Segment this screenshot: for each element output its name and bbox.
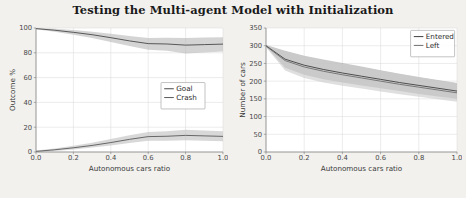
ytick-label: 60 <box>24 74 33 82</box>
legend-box[interactable]: EnteredLeft <box>411 30 455 56</box>
ytick-label: 50 <box>254 131 263 139</box>
legend-label-goal: Goal <box>176 84 192 93</box>
xtick-label: 1.0 <box>218 154 228 162</box>
right-plot-svg: 0.00.20.40.60.81.0050100150200250300350A… <box>238 22 462 174</box>
xtick-label: 1.0 <box>452 154 462 162</box>
ytick-label: 40 <box>24 99 33 107</box>
xtick-label: 0.6 <box>143 154 154 162</box>
legend-label-left: Left <box>426 41 440 50</box>
chart-panel-right: 0.00.20.40.60.81.0050100150200250300350A… <box>238 22 462 174</box>
ytick-label: 200 <box>249 78 262 86</box>
x-axis-label: Autonomous cars ratio <box>89 164 171 173</box>
xtick-label: 0.2 <box>299 154 310 162</box>
left-plot-svg: 0.00.20.40.60.81.0020406080100Autonomous… <box>8 22 228 174</box>
ytick-label: 20 <box>24 124 33 132</box>
ytick-label: 150 <box>249 95 262 103</box>
ytick-label: 0 <box>258 148 262 156</box>
y-axis-label: Outcome % <box>8 69 17 111</box>
ytick-label: 80 <box>24 49 33 57</box>
xtick-label: 0.8 <box>413 154 424 162</box>
xtick-label: 0.6 <box>375 154 386 162</box>
chart-panel-left: 0.00.20.40.60.81.0020406080100Autonomous… <box>8 22 228 174</box>
ytick-label: 300 <box>249 42 262 50</box>
xtick-label: 0.4 <box>105 154 116 162</box>
xtick-label: 0.2 <box>68 154 79 162</box>
legend-label-crash: Crash <box>176 93 197 102</box>
x-axis-label: Autonomous cars ratio <box>321 164 403 173</box>
legend-label-entered: Entered <box>426 32 454 41</box>
y-axis-label: Number of cars <box>238 62 247 118</box>
legend-box[interactable]: GoalCrash <box>161 83 205 109</box>
xtick-label: 0.4 <box>337 154 348 162</box>
figure-title: Testing the Multi-agent Model with Initi… <box>0 3 466 17</box>
figure-canvas: Testing the Multi-agent Model with Initi… <box>0 0 466 198</box>
xtick-label: 0.8 <box>180 154 191 162</box>
ytick-label: 250 <box>249 60 262 68</box>
ytick-label: 100 <box>19 24 32 32</box>
ytick-label: 350 <box>249 24 262 32</box>
ytick-label: 0 <box>28 148 32 156</box>
ytick-label: 100 <box>249 113 262 121</box>
